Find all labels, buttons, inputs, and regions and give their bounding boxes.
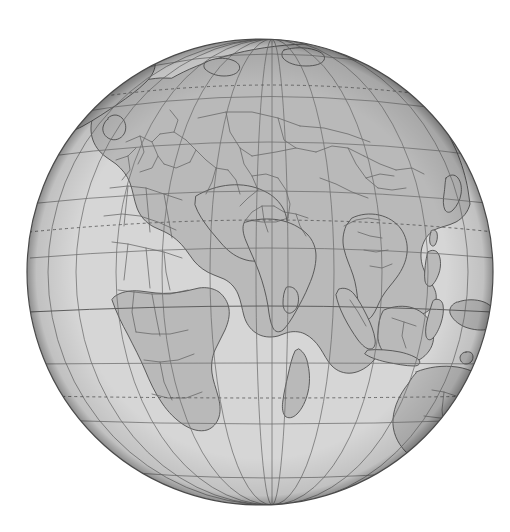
globe-map-page xyxy=(0,0,510,532)
limb-shading xyxy=(27,39,493,505)
globe-map[interactable] xyxy=(0,0,510,532)
